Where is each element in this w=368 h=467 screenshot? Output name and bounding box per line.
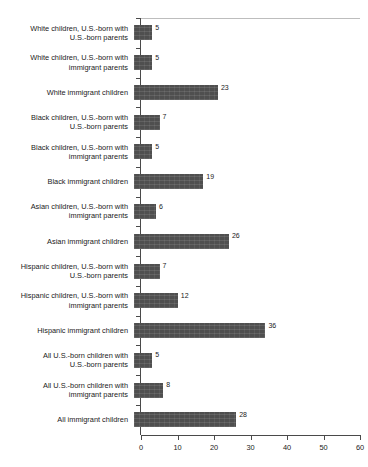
chart-row: Black children, U.S.-born with U.S.-born…	[0, 107, 368, 137]
bar	[134, 115, 160, 130]
chart-row: Hispanic children, U.S.-born with U.S.-b…	[0, 256, 368, 286]
x-axis-tick-label: 60	[356, 443, 364, 452]
chart-row: White children, U.S.-born with immigrant…	[0, 48, 368, 78]
bar	[134, 204, 156, 219]
chart-row: Black children, U.S.-born with immigrant…	[0, 137, 368, 167]
chart-row: White immigrant children23	[0, 78, 368, 108]
bar-chart: White children, U.S.-born with U.S.-born…	[0, 0, 368, 467]
bar-track: 12	[134, 286, 368, 316]
x-axis-tick	[287, 435, 288, 440]
bar	[134, 85, 218, 100]
chart-row: All U.S.-born children with immigrant pa…	[0, 375, 368, 405]
bar-track: 8	[134, 375, 368, 405]
x-axis-tick-label: 30	[246, 443, 254, 452]
category-label: Hispanic children, U.S.-born with immigr…	[0, 291, 134, 310]
bar-track: 23	[134, 78, 368, 108]
bar-value-label: 8	[166, 381, 170, 388]
bar	[134, 383, 163, 398]
x-axis-tick	[214, 435, 215, 440]
bar	[134, 293, 178, 308]
bar-track: 6	[134, 197, 368, 227]
bar-value-label: 26	[232, 232, 240, 239]
bar-track: 5	[134, 18, 368, 48]
bar	[134, 234, 229, 249]
x-axis-tick-label: 0	[139, 443, 143, 452]
bar-value-label: 28	[239, 411, 247, 418]
bar-value-label: 7	[163, 113, 167, 120]
chart-row: Black immigrant children19	[0, 167, 368, 197]
bar-value-label: 36	[268, 322, 276, 329]
bar-track: 28	[134, 405, 368, 435]
bar-value-label: 5	[155, 143, 159, 150]
category-label: Hispanic children, U.S.-born with U.S.-b…	[0, 262, 134, 281]
category-label: Black children, U.S.-born with immigrant…	[0, 143, 134, 162]
bar	[134, 55, 152, 70]
chart-row: White children, U.S.-born with U.S.-born…	[0, 18, 368, 48]
bar-track: 5	[134, 48, 368, 78]
x-axis-tick-label: 40	[283, 443, 291, 452]
bar	[134, 264, 160, 279]
x-axis-ticks: 0102030405060	[0, 435, 368, 461]
x-axis-tick-label: 50	[319, 443, 327, 452]
category-label: Black children, U.S.-born with U.S.-born…	[0, 113, 134, 132]
bar	[134, 323, 265, 338]
category-label: Asian immigrant children	[0, 237, 134, 246]
category-label: All immigrant children	[0, 415, 134, 424]
bar-track: 5	[134, 137, 368, 167]
x-axis-tick-label: 10	[173, 443, 181, 452]
x-axis-tick	[324, 435, 325, 440]
bar-value-label: 19	[206, 173, 214, 180]
bar-value-label: 12	[181, 292, 189, 299]
chart-row: Asian children, U.S.-born with immigrant…	[0, 197, 368, 227]
chart-row: All immigrant children28	[0, 405, 368, 435]
category-label: Asian children, U.S.-born with immigrant…	[0, 202, 134, 221]
bar-value-label: 23	[221, 84, 229, 91]
x-axis-tick-label: 20	[210, 443, 218, 452]
x-axis-tick	[178, 435, 179, 440]
category-label: Black immigrant children	[0, 177, 134, 186]
bar-track: 36	[134, 316, 368, 346]
bar-track: 7	[134, 107, 368, 137]
x-axis-tick	[360, 435, 361, 440]
x-axis-tick	[251, 435, 252, 440]
bar-track: 26	[134, 226, 368, 256]
bar	[134, 25, 152, 40]
bar	[134, 144, 152, 159]
bar-value-label: 6	[159, 203, 163, 210]
bar-track: 5	[134, 345, 368, 375]
chart-rows: White children, U.S.-born with U.S.-born…	[0, 18, 368, 435]
category-label: White immigrant children	[0, 88, 134, 97]
category-label: All U.S.-born children with U.S.-born pa…	[0, 351, 134, 370]
bar	[134, 412, 236, 427]
bar-value-label: 5	[155, 351, 159, 358]
chart-row: Hispanic immigrant children36	[0, 316, 368, 346]
chart-row: Asian immigrant children26	[0, 226, 368, 256]
bar-track: 19	[134, 167, 368, 197]
bar-track: 7	[134, 256, 368, 286]
bar	[134, 353, 152, 368]
category-label: All U.S.-born children with immigrant pa…	[0, 381, 134, 400]
category-label: White children, U.S.-born with immigrant…	[0, 53, 134, 72]
x-axis-tick	[141, 435, 142, 440]
bar-value-label: 5	[155, 54, 159, 61]
bar-value-label: 5	[155, 24, 159, 31]
bar-value-label: 7	[163, 262, 167, 269]
category-label: Hispanic immigrant children	[0, 326, 134, 335]
chart-row: All U.S.-born children with U.S.-born pa…	[0, 345, 368, 375]
chart-row: Hispanic children, U.S.-born with immigr…	[0, 286, 368, 316]
bar	[134, 174, 203, 189]
category-label: White children, U.S.-born with U.S.-born…	[0, 24, 134, 43]
